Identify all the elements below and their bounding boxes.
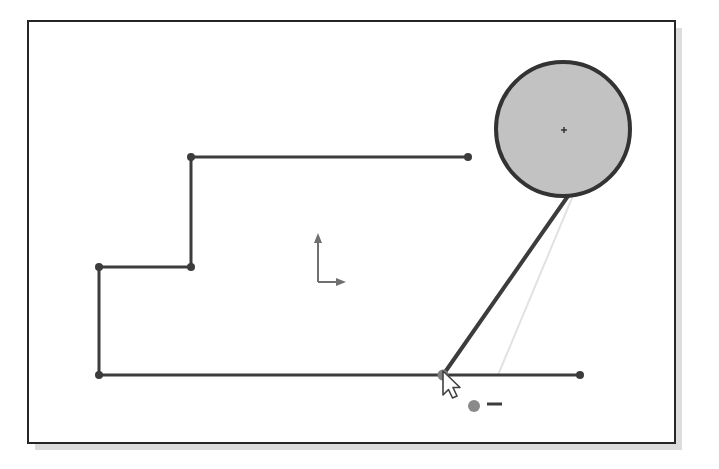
drawing-canvas-root[interactable] bbox=[0, 0, 719, 469]
vertex-mid-step-corner[interactable] bbox=[187, 263, 195, 271]
delete-point-badge-dot-icon bbox=[468, 400, 480, 412]
vertex-mid-left-end[interactable] bbox=[95, 263, 103, 271]
vector-scene[interactable] bbox=[0, 0, 719, 469]
vertex-top-right-end[interactable] bbox=[464, 153, 472, 161]
vertex-top-left-corner[interactable] bbox=[187, 153, 195, 161]
shaded-circle[interactable] bbox=[496, 62, 630, 196]
vertex-bottom-left-corner[interactable] bbox=[95, 371, 103, 379]
vertex-bottom-right-end[interactable] bbox=[576, 371, 584, 379]
